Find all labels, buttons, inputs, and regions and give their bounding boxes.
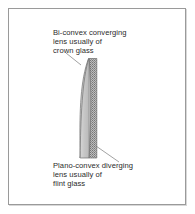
caption-bottom-line-1: Plano-convex diverging (53, 161, 133, 170)
caption-top-line-3: crown glass (53, 46, 127, 55)
caption-top-line-2: lens usually of (53, 37, 127, 46)
caption-top-line-1: Bi-convex converging (53, 28, 127, 37)
lens-diagram-figure: Bi-convex converging lens usually of cro… (0, 0, 195, 214)
caption-bottom-line-2: lens usually of (53, 170, 133, 179)
flint-glass-lens (89, 59, 97, 159)
plano-convex-diverging-lens-label: Plano-convex diverging lens usually of f… (53, 161, 133, 189)
leader-line-bottom (96, 146, 119, 162)
caption-bottom-line-3: flint glass (53, 179, 133, 188)
bi-convex-converging-lens-label: Bi-convex converging lens usually of cro… (53, 28, 127, 56)
